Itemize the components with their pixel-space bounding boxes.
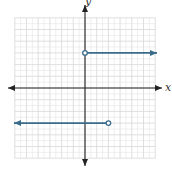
- x-axis-label: x: [165, 81, 171, 94]
- open-circle-endpoint-icon: [83, 51, 88, 56]
- y-axis-label: y: [85, 0, 91, 8]
- x-axis-right-arrow-icon: [155, 85, 162, 91]
- coordinate-plane: [0, 0, 172, 170]
- x-axis-left-arrow-icon: [8, 85, 15, 91]
- y-axis-down-arrow-icon: [82, 159, 88, 166]
- open-circle-endpoint-icon: [106, 121, 111, 126]
- ray-right-arrow-icon: [150, 50, 157, 56]
